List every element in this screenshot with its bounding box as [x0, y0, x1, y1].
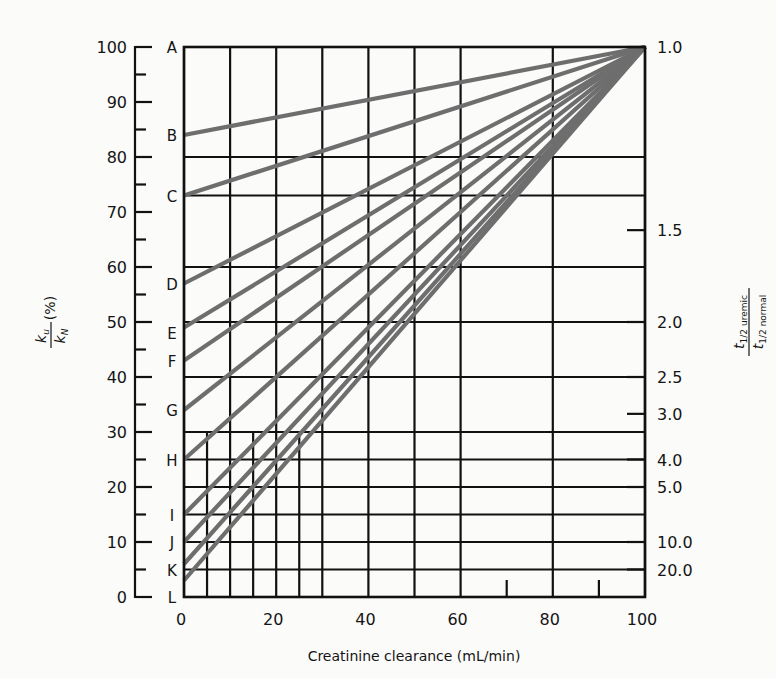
left-tick-label: 70: [107, 203, 127, 222]
left-tick-label: 20: [107, 478, 127, 497]
x-tick-label: 60: [447, 610, 467, 629]
series-label-C: C: [167, 188, 177, 206]
right-tick-label: 1.5: [657, 221, 682, 240]
x-axis-title: Creatinine clearance (mL/min): [308, 648, 521, 664]
left-tick-label: 40: [107, 368, 127, 387]
series-label-H: H: [166, 452, 177, 470]
svg-text:t1/2 normal: t1/2 normal: [750, 295, 768, 349]
x-tick-label: 40: [355, 610, 375, 629]
left-y-axis: 0102030405060708090100: [96, 38, 152, 607]
right-tick-label: 4.0: [657, 451, 682, 470]
series-label-G: G: [166, 402, 178, 420]
svg-text:ku: ku: [33, 329, 51, 343]
series-label-F: F: [168, 353, 177, 371]
left-tick-label: 10: [107, 533, 127, 552]
left-tick-label: 100: [96, 38, 127, 57]
right-tick-label: 10.0: [657, 533, 693, 552]
right-tick-label: 2.5: [657, 368, 682, 387]
x-tick-label: 20: [263, 610, 283, 629]
right-tick-label: 3.0: [657, 405, 682, 424]
series-label-J: J: [169, 534, 174, 552]
left-tick-label: 50: [107, 313, 127, 332]
svg-text:t1/2 uremic: t1/2 uremic: [731, 295, 749, 349]
series-label-I: I: [170, 507, 174, 525]
series-letter-labels: ABCDEFGHIJKL: [166, 39, 178, 607]
svg-text:(%): (%): [42, 296, 58, 320]
x-tick-label: 100: [627, 610, 658, 629]
right-y-axis: 1.01.52.02.53.04.05.010.020.0: [627, 38, 693, 580]
left-tick-label: 60: [107, 258, 127, 277]
nomogram-chart: 0102030405060708090100 ABCDEFGHIJKL 0204…: [0, 0, 776, 678]
left-tick-label: 0: [117, 588, 127, 607]
right-tick-label: 20.0: [657, 561, 693, 580]
left-axis-title: ku kN (%): [33, 296, 70, 348]
right-tick-label: 1.0: [657, 38, 682, 57]
series-label-A: A: [167, 39, 178, 57]
series-label-B: B: [167, 127, 177, 145]
series-label-K: K: [167, 562, 178, 580]
x-tick-label: 80: [540, 610, 560, 629]
series-label-E: E: [167, 325, 176, 343]
right-tick-label: 2.0: [657, 313, 682, 332]
series-label-L: L: [168, 589, 177, 607]
svg-text:kN: kN: [52, 328, 70, 343]
x-axis: 020406080100: [176, 610, 657, 629]
left-tick-label: 90: [107, 93, 127, 112]
x-tick-label: 0: [176, 610, 186, 629]
series-label-D: D: [166, 276, 178, 294]
left-tick-label: 30: [107, 423, 127, 442]
right-tick-label: 5.0: [657, 478, 682, 497]
right-axis-title: t1/2 uremic t1/2 normal: [731, 288, 768, 356]
left-tick-label: 80: [107, 148, 127, 167]
